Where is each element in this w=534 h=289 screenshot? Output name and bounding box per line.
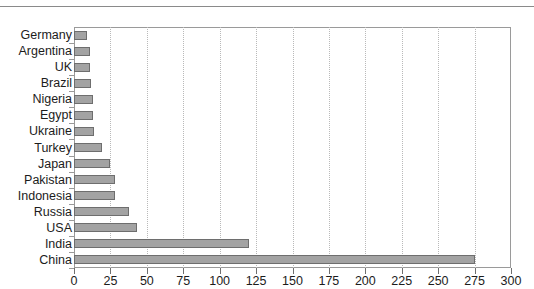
bar-russia <box>74 207 129 216</box>
bar-usa <box>74 223 137 232</box>
y-tick-13 <box>69 252 74 253</box>
y-axis-label-russia: Russia <box>4 205 72 219</box>
bar-japan <box>74 159 110 168</box>
header-divider <box>0 6 534 7</box>
y-axis-label-egypt: Egypt <box>4 108 72 122</box>
y-tick-6 <box>69 139 74 140</box>
gridline-150 <box>293 27 294 268</box>
y-axis-label-usa: USA <box>4 221 72 235</box>
x-axis-label-250: 250 <box>418 274 458 288</box>
gridline-250 <box>438 27 439 268</box>
x-axis-label-275: 275 <box>455 274 495 288</box>
y-axis-label-japan: Japan <box>4 157 72 171</box>
gridline-200 <box>365 27 366 268</box>
y-axis-label-brazil: Brazil <box>4 76 72 90</box>
y-tick-0 <box>69 43 74 44</box>
x-axis-label-175: 175 <box>309 274 349 288</box>
gridline-100 <box>220 27 221 268</box>
y-axis-label-ukraine: Ukraine <box>4 124 72 138</box>
y-axis-labels: GermanyArgentinaUKBrazilNigeriaEgyptUkra… <box>0 27 72 268</box>
x-axis-label-0: 0 <box>54 274 94 288</box>
y-axis-label-germany: Germany <box>4 28 72 42</box>
y-tick-12 <box>69 236 74 237</box>
bar-china <box>74 255 475 264</box>
y-tick-10 <box>69 204 74 205</box>
gridline-275 <box>475 27 476 268</box>
bar-turkey <box>74 143 102 152</box>
gridline-125 <box>256 27 257 268</box>
y-axis-label-nigeria: Nigeria <box>4 92 72 106</box>
bar-egypt <box>74 111 93 120</box>
gridline-50 <box>147 27 148 268</box>
bar-indonesia <box>74 191 115 200</box>
y-axis-label-china: China <box>4 253 72 267</box>
y-axis-label-uk: UK <box>4 60 72 74</box>
gridline-225 <box>402 27 403 268</box>
x-axis-label-200: 200 <box>345 274 385 288</box>
y-axis-label-india: India <box>4 237 72 251</box>
bar-india <box>74 239 249 248</box>
bar-brazil <box>74 79 91 88</box>
y-tick-2 <box>69 75 74 76</box>
bar-argentina <box>74 47 90 56</box>
bar-chart: GermanyArgentinaUKBrazilNigeriaEgyptUkra… <box>0 0 534 289</box>
y-axis-label-pakistan: Pakistan <box>4 173 72 187</box>
bar-nigeria <box>74 95 93 104</box>
x-axis-label-100: 100 <box>200 274 240 288</box>
bar-germany <box>74 31 87 40</box>
bar-ukraine <box>74 127 94 136</box>
y-axis-label-turkey: Turkey <box>4 141 72 155</box>
y-tick-1 <box>69 59 74 60</box>
y-axis-label-argentina: Argentina <box>4 44 72 58</box>
y-tick-3 <box>69 91 74 92</box>
x-axis-label-25: 25 <box>90 274 130 288</box>
y-tick-5 <box>69 123 74 124</box>
bar-uk <box>74 63 90 72</box>
x-axis-label-125: 125 <box>236 274 276 288</box>
y-axis-label-indonesia: Indonesia <box>4 189 72 203</box>
y-tick-9 <box>69 188 74 189</box>
x-axis-label-50: 50 <box>127 274 167 288</box>
x-axis-label-75: 75 <box>163 274 203 288</box>
y-tick-8 <box>69 172 74 173</box>
y-tick-4 <box>69 107 74 108</box>
gridline-175 <box>329 27 330 268</box>
bar-pakistan <box>74 175 115 184</box>
x-axis-label-150: 150 <box>273 274 313 288</box>
y-tick-11 <box>69 220 74 221</box>
gridline-75 <box>183 27 184 268</box>
x-axis-label-225: 225 <box>382 274 422 288</box>
y-tick-7 <box>69 156 74 157</box>
x-axis-label-300: 300 <box>491 274 531 288</box>
